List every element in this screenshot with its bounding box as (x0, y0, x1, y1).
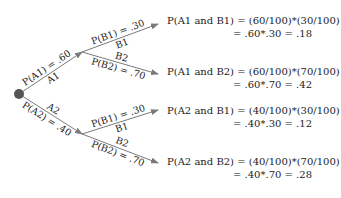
formula-a2-b2-line1: P(A2 and B2) = (40/100)*(70/100) (167, 155, 340, 168)
label-p-a1: P(A1) = .60 (20, 48, 73, 88)
formula-a1-b1: P(A1 and B1) = (60/100)*(30/100) = .60*.… (167, 14, 340, 40)
root-node (14, 89, 24, 99)
formula-a2-b1-line1: P(A2 and B1) = (40/100)*(30/100) (167, 104, 340, 117)
formula-a2-b2-line2: = .40*.70 = .28 (167, 168, 340, 181)
probability-tree-diagram: P(A1) = .60 A1 A2 P(A2) = .40 P(B1) = .3… (0, 0, 341, 198)
formula-a1-b2-line2: = .60*.70 = .42 (167, 78, 340, 91)
formula-a2-b1: P(A2 and B1) = (40/100)*(30/100) = .40*.… (167, 104, 340, 130)
formula-a2-b2: P(A2 and B2) = (40/100)*(70/100) = .40*.… (167, 155, 340, 181)
formula-a1-b1-line1: P(A1 and B1) = (60/100)*(30/100) (167, 14, 340, 27)
formula-a1-b2-line1: P(A1 and B2) = (60/100)*(70/100) (167, 65, 340, 78)
formula-a1-b2: P(A1 and B2) = (60/100)*(70/100) = .60*.… (167, 65, 340, 91)
formula-a1-b1-line2: = .60*.30 = .18 (167, 27, 340, 40)
label-event-b1-lower: B1 (114, 120, 130, 134)
formula-a2-b1-line2: = .40*.30 = .12 (167, 117, 340, 130)
